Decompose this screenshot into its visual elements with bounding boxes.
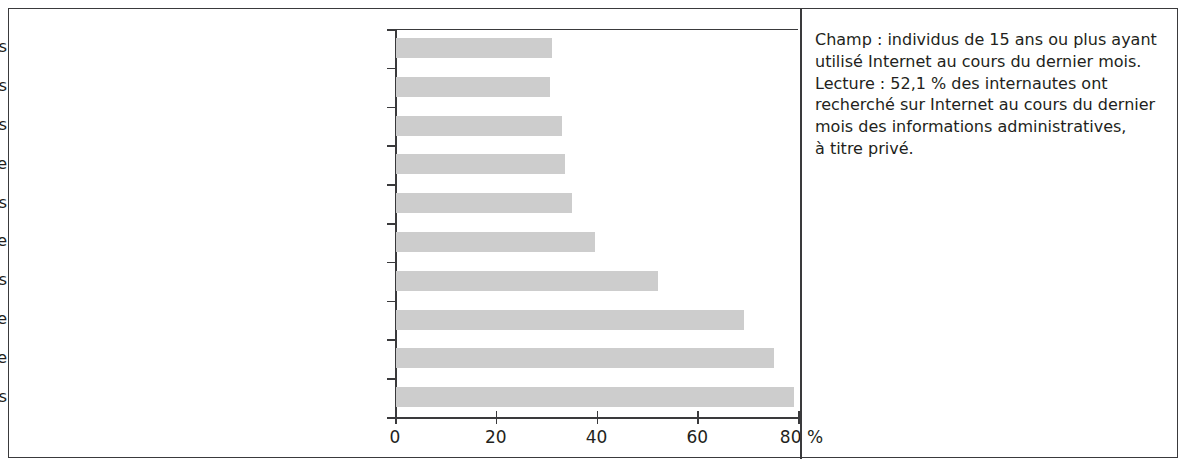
y-axis-label: Recherche d'informations (0, 387, 7, 406)
bar-row (395, 339, 798, 378)
y-axis-label: Obtenir des informations administratives (0, 270, 7, 289)
x-tick-label: 40 (586, 427, 608, 447)
chart-notes: Champ : individus de 15 ans ou plus ayan… (815, 29, 1167, 160)
y-axis-label: Recherche documentaire (0, 309, 7, 328)
y-tick (387, 223, 396, 225)
y-axis-label: Achat de biens et services (0, 193, 7, 212)
y-tick (387, 339, 396, 341)
y-tick (387, 29, 396, 31)
bar (396, 154, 565, 174)
bar (396, 348, 774, 368)
bar (396, 116, 562, 136)
chart-notes-text: Champ : individus de 15 ans ou plus ayan… (815, 29, 1167, 160)
bar (396, 387, 794, 407)
bar-row (395, 262, 798, 301)
bar-row (395, 223, 798, 262)
bar-row (395, 29, 798, 68)
y-tick (387, 145, 396, 147)
panel-divider (800, 9, 802, 459)
bar (396, 77, 550, 97)
bar-row (395, 68, 798, 107)
bar-row (395, 145, 798, 184)
y-tick (387, 262, 396, 264)
x-tick-label: 20 (485, 427, 507, 447)
y-tick (387, 107, 396, 109)
bar (396, 271, 658, 291)
bar-row (395, 184, 798, 223)
y-tick (387, 301, 396, 303)
chart-panel: 020406080 % Télécharger documents admini… (9, 9, 801, 457)
y-tick (387, 184, 396, 186)
bar-row (395, 107, 798, 146)
bar-row (395, 301, 798, 340)
x-tick (597, 411, 599, 424)
y-axis-label: Messagerie instantanée (0, 154, 7, 173)
figure-frame: 020406080 % Télécharger documents admini… (8, 8, 1178, 458)
x-tick-label: 0 (390, 427, 401, 447)
y-tick (387, 378, 396, 380)
y-axis-label: Organisation de vacances (0, 115, 7, 134)
x-tick (697, 411, 699, 424)
y-tick (387, 68, 396, 70)
plot-area: 020406080 % (395, 29, 798, 417)
x-tick-label: 60 (686, 427, 708, 447)
y-axis-label: Télécharger documents administratifs (0, 37, 7, 56)
bar (396, 232, 595, 252)
x-tick (395, 411, 397, 424)
y-axis-label: Compte bancaire (0, 231, 7, 250)
bar (396, 38, 552, 58)
y-axis-label: Musiques, films (0, 76, 7, 95)
x-tick (496, 411, 498, 424)
bar (396, 310, 744, 330)
y-axis-label: Messagerie électronique (0, 348, 7, 367)
bar (396, 193, 572, 213)
